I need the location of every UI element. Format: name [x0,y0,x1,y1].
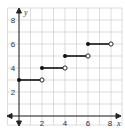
open-dot [63,66,67,70]
y-tick-6: 6 [11,40,16,49]
closed-dot [40,66,44,70]
y-tick-8: 8 [11,16,16,25]
closed-dot [17,78,21,82]
closed-dot [86,42,90,46]
x-tick-2: 2 [40,119,45,128]
open-dot [109,42,113,46]
open-dot [40,78,44,82]
x-tick-8: 8 [108,119,113,128]
x-axis-label: x [116,119,121,128]
closed-dot [63,54,67,58]
y-tick-4: 4 [11,64,16,73]
y-axis-label: y [23,8,28,17]
x-tick-6: 6 [86,119,91,128]
open-dot [86,54,90,58]
y-tick-2: 2 [11,88,16,97]
step-function-chart: y x 2 4 6 8 2 4 6 8 [0,0,125,129]
x-tick-4: 4 [63,119,68,128]
